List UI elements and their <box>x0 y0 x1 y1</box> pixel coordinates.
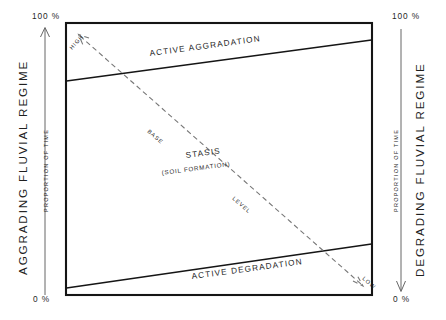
right-bottom-tick: 0 % <box>393 294 410 304</box>
diagram-canvas: 100 % 0 % PROPORTION OF TIME AGGRADING F… <box>0 0 446 320</box>
left-axis-minor-label: PROPORTION OF TIME <box>43 129 49 212</box>
right-axis-group: 100 % 0 % PROPORTION OF TIME DEGRADING F… <box>392 11 426 304</box>
degradation-boundary-line <box>67 244 372 288</box>
left-top-tick: 100 % <box>32 11 60 21</box>
zone-label-degradation: ACTIVE DEGRADATION <box>191 257 303 281</box>
right-axis-major-label: DEGRADING FLUVIAL REGIME <box>413 62 426 277</box>
right-top-tick: 100 % <box>392 11 420 21</box>
right-axis-minor-label: PROPORTION OF TIME <box>393 129 399 212</box>
zone-label-aggradation: ACTIVE AGGRADATION <box>149 34 261 58</box>
fluvial-regime-diagram: 100 % 0 % PROPORTION OF TIME AGGRADING F… <box>0 0 446 320</box>
base-level-word-level: LEVEL <box>231 195 252 214</box>
left-axis-major-label: AGGRADING FLUVIAL REGIME <box>16 60 29 275</box>
base-level-low-arrowhead <box>353 275 363 286</box>
zone-label-stasis: STASIS <box>185 146 221 160</box>
base-level-low-label: LOW <box>361 275 377 290</box>
left-axis-group: 100 % 0 % PROPORTION OF TIME AGGRADING F… <box>16 11 60 304</box>
zone-sublabel-soil-formation: (SOIL FORMATION) <box>161 160 230 176</box>
left-bottom-tick: 0 % <box>33 294 50 304</box>
base-level-word-base: BASE <box>146 128 164 145</box>
